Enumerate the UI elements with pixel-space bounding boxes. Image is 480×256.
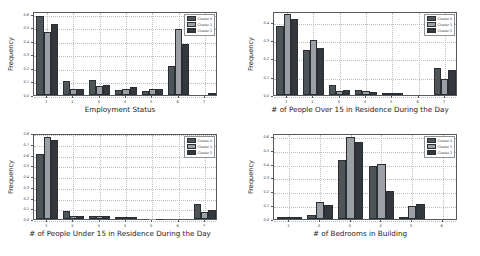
bar [36,16,43,95]
bar [277,217,285,219]
bar [122,89,129,95]
y-tick-mark [31,69,33,70]
legend: Cluster 0Cluster 1Cluster 2 [184,14,215,36]
x-tick-mark [46,96,47,98]
bar [51,140,58,219]
bar [310,40,317,95]
y-tick-mark [271,192,273,193]
legend-item: Cluster 0 [427,16,452,21]
y-tick-mark [271,96,273,97]
legend-label: Cluster 0 [198,139,212,143]
legend-swatch [187,144,196,149]
bar [208,93,215,95]
y-tick-mark [31,145,33,146]
y-tick-mark [271,178,273,179]
bar-group [303,13,325,95]
legend-swatch [427,22,436,27]
x-tick-mark [319,220,320,222]
legend-swatch [187,22,196,27]
y-axis-title: Frequency [7,134,15,220]
bar-group [329,13,351,95]
bar [382,93,389,95]
bar [355,90,362,95]
bar [96,86,103,95]
chart-panel-employment-status: 0.00.10.20.30.40.50.61234567FrequencyEmp… [0,0,240,128]
x-tick-label: 3 [98,223,100,228]
x-tick-label: 3 [348,223,350,228]
y-tick-mark [31,96,33,97]
x-tick-label: 1 [285,99,287,104]
bar [70,216,77,219]
bar [343,90,350,95]
x-tick-mark [350,220,351,222]
chart-panel-people-under-15: 0.00.10.20.30.40.50.60.70.81234567Freque… [0,128,240,256]
bar [396,93,403,95]
bar [51,24,58,95]
legend-item: Cluster 1 [187,22,212,27]
x-tick-label: 7 [203,99,205,104]
bar-group [277,135,302,219]
legend-swatch [187,28,196,33]
x-tick-label: 1 [45,223,47,228]
bar-group [89,13,111,95]
bar [355,142,363,219]
bar [115,217,122,219]
legend: Cluster 0Cluster 1Cluster 2 [424,136,455,158]
legend-label: Cluster 1 [438,145,452,149]
x-tick-mark [442,220,443,222]
legend: Cluster 0Cluster 1Cluster 2 [184,136,215,158]
y-tick-mark [31,55,33,56]
y-tick-mark [271,151,273,152]
legend-label: Cluster 1 [438,23,452,27]
bar [194,204,201,219]
y-tick-mark [31,28,33,29]
x-tick-mark [204,220,205,222]
y-tick-mark [271,23,273,24]
bar-group [307,135,332,219]
x-tick-label: 1 [45,99,47,104]
y-tick-mark [271,41,273,42]
bar [103,85,110,95]
legend-item: Cluster 2 [187,28,212,33]
bar [441,79,448,95]
bar [329,85,336,95]
x-tick-mark [444,96,445,98]
x-tick-label: 6 [176,99,178,104]
bar [70,89,77,95]
bar-group [399,135,424,219]
bar [44,32,51,95]
x-axis-title: Employment Status [0,105,240,114]
legend-label: Cluster 2 [438,29,452,33]
x-tick-label: 2 [311,99,313,104]
y-tick-mark [271,59,273,60]
legend-item: Cluster 0 [187,138,212,143]
bar [370,92,377,95]
bar [369,166,377,219]
bar [276,26,283,95]
bar-group [369,135,394,219]
x-tick-mark [204,96,205,98]
bar [89,80,96,95]
bar-group [63,13,85,95]
x-tick-mark [151,96,152,98]
bar-group [63,135,85,219]
x-axis-title: # of People Over 15 in Residence During … [240,105,480,114]
y-axis-title: Frequency [247,12,255,96]
legend-label: Cluster 2 [438,151,452,155]
x-tick-mark [288,220,289,222]
legend-item: Cluster 1 [187,144,212,149]
gridline-horizontal [274,221,456,222]
x-tick-label: 4 [364,99,366,104]
x-tick-mark [151,220,152,222]
x-tick-label: 6 [176,223,178,228]
x-tick-label: 7 [203,223,205,228]
bar-group [142,135,164,219]
legend-item: Cluster 1 [427,144,452,149]
bar [208,210,215,219]
bar [399,217,407,219]
bar [448,70,455,95]
bar [63,81,70,95]
bar [408,206,416,219]
bar [389,93,396,95]
bar-group [115,13,137,95]
